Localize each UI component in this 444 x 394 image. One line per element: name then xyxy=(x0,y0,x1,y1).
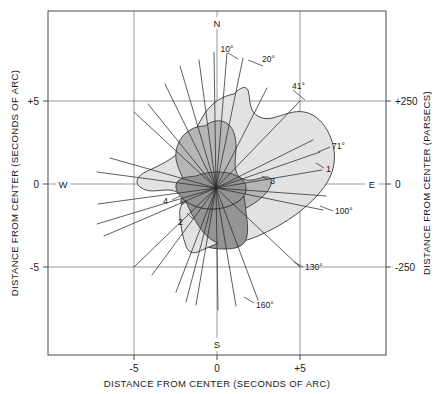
contour-label-2: 2 xyxy=(178,217,183,227)
compass-north-text: N xyxy=(214,18,221,29)
x-axis-title: DISTANCE FROM CENTER (SECONDS OF ARC) xyxy=(104,378,331,389)
y2-axis-title: DISTANCE FROM CENTER (PARSECS) xyxy=(421,91,432,275)
xtick-label-plus5: +5 xyxy=(294,363,306,374)
angle-label-71: 71° xyxy=(332,141,345,151)
contour-label-1: 1 xyxy=(326,164,331,174)
contour-label-4: 4 xyxy=(163,196,168,206)
leader-line-160 xyxy=(244,297,254,303)
compass-south-text: S xyxy=(214,339,220,350)
xtick-label-zero: 0 xyxy=(214,363,220,374)
compass-east-text: E xyxy=(369,179,375,190)
contour-plot: 10° 20° 41° 71° 100° 130° 160° 1 2 3 4 N… xyxy=(0,0,444,394)
y2tick-label-minus250: -250 xyxy=(395,262,415,273)
figure-container: 10° 20° 41° 71° 100° 130° 160° 1 2 3 4 N… xyxy=(0,0,444,394)
angle-label-41: 41° xyxy=(292,81,305,91)
leader-line-100 xyxy=(320,206,333,211)
xtick-label-minus5: -5 xyxy=(130,363,139,374)
y-axis-title: DISTANCE FROM CENTER (SECONDS OF ARC) xyxy=(9,70,20,297)
y2tick-label-zero: 0 xyxy=(395,179,401,190)
ytick-label-zero: 0 xyxy=(33,179,39,190)
angle-label-160: 160° xyxy=(256,300,274,310)
leader-line-20 xyxy=(248,60,263,66)
angle-label-10: 10° xyxy=(221,44,234,54)
y2tick-label-plus250: +250 xyxy=(395,96,418,107)
angle-label-100: 100° xyxy=(335,206,353,216)
leader-line-41 xyxy=(293,90,305,100)
compass-west-text: W xyxy=(59,179,68,190)
contour-label-3: 3 xyxy=(270,176,275,186)
ytick-label-minus5: -5 xyxy=(30,262,39,273)
angle-label-130: 130° xyxy=(305,262,323,272)
angle-label-20: 20° xyxy=(262,54,275,64)
ytick-label-plus5: +5 xyxy=(28,96,40,107)
leader-line-130 xyxy=(294,262,303,267)
